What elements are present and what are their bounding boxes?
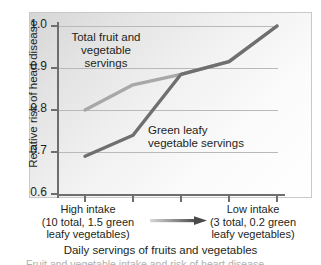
y-tick-mark-0-9 [51, 67, 59, 69]
y-tick-mark-0-6 [51, 193, 59, 195]
x-note-low-intake: Low intake (3 total, 0.2 green leafy veg… [193, 203, 313, 241]
gridline-1-0 [58, 26, 278, 27]
series-label-green-leafy-vegetable: Green leafy vegetable servings [148, 124, 252, 150]
y-tick-mark-0-8 [51, 109, 59, 111]
x-tick-mark-4 [228, 196, 230, 202]
y-axis-title: Relative risk of heart disease [27, 14, 39, 174]
clipped-caption: Fruit and vegetable intake and risk of h… [26, 259, 306, 265]
series-label-total-fruit-vegetable: Total fruit and vegetable servings [64, 31, 148, 70]
y-tick-label-0-6: 0.6 [30, 186, 47, 198]
x-tick-mark-2 [132, 196, 134, 202]
x-tick-mark-3 [180, 196, 182, 202]
y-tick-mark-1-0 [51, 25, 59, 27]
x-axis-title: Daily servings of fruits and vegetables [0, 244, 321, 257]
chart-figure: 1.0 0.9 0.8 0.7 0.6 Relative risk of hea… [0, 0, 321, 265]
x-tick-mark-1 [84, 196, 86, 202]
y-tick-mark-0-7 [51, 151, 59, 153]
intake-direction-arrow-icon [150, 212, 208, 222]
gridline-0-8 [58, 110, 278, 111]
x-axis-line [57, 194, 285, 196]
x-axis-annotations: High intake (10 total, 1.5 green leafy v… [0, 203, 321, 245]
gridline-0-7 [58, 152, 278, 153]
x-tick-mark-5 [276, 196, 278, 202]
x-note-high-intake: High intake (10 total, 1.5 green leafy v… [28, 203, 148, 241]
